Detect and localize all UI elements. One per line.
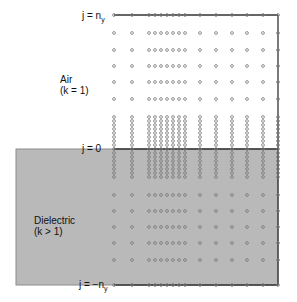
- grid-node: [160, 65, 163, 68]
- grid-node: [172, 116, 175, 119]
- grid-node: [246, 128, 249, 131]
- grid-node: [166, 132, 169, 135]
- grid-node: [113, 120, 116, 123]
- grid-node: [113, 144, 116, 147]
- grid-node: [184, 124, 187, 127]
- grid-node: [215, 136, 218, 139]
- grid-node: [178, 49, 181, 52]
- grid-node: [199, 132, 202, 135]
- grid-node: [148, 136, 151, 139]
- grid-node: [178, 144, 181, 147]
- grid-node: [184, 144, 187, 147]
- grid-node: [262, 81, 265, 84]
- grid-node: [154, 140, 157, 143]
- grid-node: [166, 65, 169, 68]
- grid-node: [160, 98, 163, 101]
- grid-node: [166, 120, 169, 123]
- bottom-boundary-label: j = −ny: [79, 279, 108, 294]
- grid-node: [148, 124, 151, 127]
- grid-node: [172, 136, 175, 139]
- grid-node: [166, 140, 169, 143]
- grid-node: [160, 116, 163, 119]
- grid-node: [160, 120, 163, 123]
- grid-node: [154, 132, 157, 135]
- dielectric-region-name: Dielectric: [34, 215, 75, 226]
- grid-node: [166, 32, 169, 35]
- grid-node: [148, 98, 151, 101]
- grid-node: [154, 136, 157, 139]
- grid-node: [113, 81, 116, 84]
- grid-node: [215, 98, 218, 101]
- grid-node: [113, 140, 116, 143]
- grid-node: [154, 98, 157, 101]
- grid-node: [154, 120, 157, 123]
- grid-node: [215, 65, 218, 68]
- grid-node: [166, 81, 169, 84]
- grid-node: [131, 128, 134, 131]
- grid-node: [113, 132, 116, 135]
- grid-node: [231, 124, 234, 127]
- grid-node: [131, 116, 134, 119]
- grid-node: [178, 132, 181, 135]
- grid-node: [262, 144, 265, 147]
- grid-node: [160, 140, 163, 143]
- grid-node: [154, 144, 157, 147]
- grid-node: [262, 120, 265, 123]
- grid-node: [231, 128, 234, 131]
- grid-node: [148, 128, 151, 131]
- grid-node: [184, 32, 187, 35]
- grid-node: [215, 132, 218, 135]
- grid-node: [184, 140, 187, 143]
- grid-node: [215, 124, 218, 127]
- grid-node: [262, 128, 265, 131]
- grid-node: [246, 49, 249, 52]
- grid-node: [231, 116, 234, 119]
- grid-node: [148, 144, 151, 147]
- grid-node: [131, 32, 134, 35]
- grid-node: [131, 132, 134, 135]
- grid-node: [113, 124, 116, 127]
- grid-node: [199, 124, 202, 127]
- grid-node: [160, 144, 163, 147]
- grid-node: [172, 140, 175, 143]
- grid-node: [262, 140, 265, 143]
- grid-node: [199, 120, 202, 123]
- grid-node: [154, 65, 157, 68]
- grid-node: [246, 140, 249, 143]
- air-label: Air (k = 1): [60, 74, 89, 96]
- grid-node: [199, 144, 202, 147]
- grid-node: [166, 144, 169, 147]
- grid-node: [231, 65, 234, 68]
- grid-node: [113, 128, 116, 131]
- grid-node: [154, 81, 157, 84]
- grid-node: [215, 32, 218, 35]
- grid-node: [262, 116, 265, 119]
- grid-node: [262, 65, 265, 68]
- grid-node: [148, 120, 151, 123]
- grid-node: [246, 81, 249, 84]
- grid-node: [148, 116, 151, 119]
- grid-node: [231, 98, 234, 101]
- grid-node: [215, 128, 218, 131]
- grid-node: [184, 81, 187, 84]
- grid-node: [148, 140, 151, 143]
- grid-node: [231, 140, 234, 143]
- grid-node: [172, 120, 175, 123]
- grid-node: [246, 136, 249, 139]
- grid-node: [184, 132, 187, 135]
- grid-node: [199, 140, 202, 143]
- grid-node: [172, 98, 175, 101]
- grid-node: [160, 132, 163, 135]
- grid-node: [113, 98, 116, 101]
- grid-node: [148, 49, 151, 52]
- grid-node: [262, 136, 265, 139]
- grid-node: [154, 124, 157, 127]
- grid-node: [215, 144, 218, 147]
- grid-node: [231, 81, 234, 84]
- grid-node: [262, 49, 265, 52]
- grid-node: [215, 81, 218, 84]
- grid-node: [199, 128, 202, 131]
- grid-node: [160, 124, 163, 127]
- grid-node: [131, 49, 134, 52]
- grid-node: [246, 120, 249, 123]
